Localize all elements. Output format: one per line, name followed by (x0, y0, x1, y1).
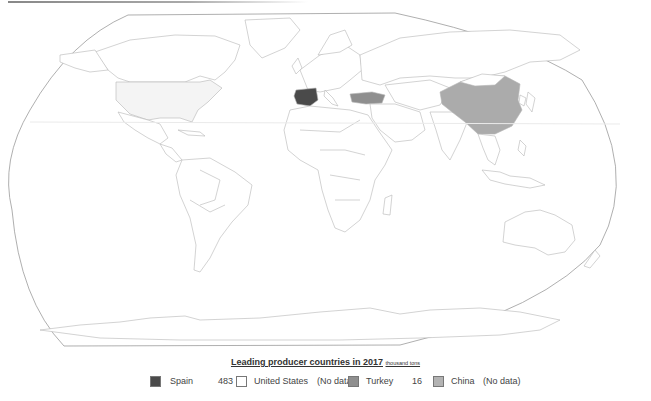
swatch-turkey (348, 376, 359, 387)
legend-title: Leading producer countries in 2017 thous… (0, 357, 651, 367)
legend-label: Spain (170, 376, 193, 386)
country-turkey (350, 92, 385, 104)
legend-label: United States (254, 376, 308, 386)
swatch-china (433, 376, 444, 387)
legend-value: 16 (412, 376, 422, 386)
world-map (0, 0, 651, 350)
legend-value: 483 (218, 376, 233, 386)
legend-title-text: Leading producer countries in 2017 (231, 357, 383, 367)
legend-unit: thousand tons (386, 360, 421, 366)
legend-label: Turkey (366, 376, 393, 386)
swatch-united-states (236, 376, 247, 387)
swatch-spain (150, 376, 161, 387)
legend-value: (No data) (483, 376, 521, 386)
legend-label: China (451, 376, 475, 386)
